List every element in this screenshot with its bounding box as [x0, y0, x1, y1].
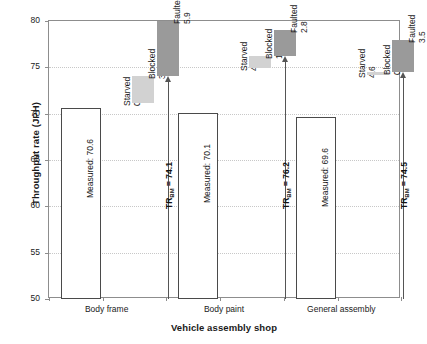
y-tick-label: 65 — [0, 154, 40, 164]
x-tick-mark — [284, 297, 285, 301]
y-tick-label: 70 — [0, 108, 40, 118]
loss-block-faulted[interactable] — [392, 40, 414, 72]
benchmark-arrow-head — [282, 56, 288, 62]
loss-block-value: 5.9 — [183, 0, 193, 24]
x-tick-mark — [338, 297, 339, 301]
benchmark-label: TRBM = 74.1 — [164, 162, 174, 209]
benchmark-subscript: BM — [286, 188, 292, 197]
loss-block-value: 3.5 — [417, 14, 427, 42]
x-tick-mark — [103, 297, 104, 301]
measured-bar-label: Measured: 70.1 — [202, 144, 212, 203]
measured-bar[interactable] — [178, 113, 218, 299]
y-tick-mark — [45, 21, 49, 22]
x-axis-title: Vehicle assembly shop — [48, 322, 400, 333]
gridline — [49, 160, 399, 161]
x-tick-mark — [166, 297, 167, 301]
benchmark-symbol: TR — [164, 198, 174, 209]
y-tick-mark — [45, 160, 49, 161]
y-tick-mark — [45, 67, 49, 68]
measured-bar[interactable] — [296, 117, 336, 299]
x-tick-mark — [401, 297, 402, 301]
x-tick-mark — [49, 297, 50, 301]
benchmark-symbol: TR — [281, 198, 291, 209]
benchmark-arrow-head — [165, 76, 171, 82]
loss-block-label: Faulted2.8 — [290, 5, 309, 33]
y-tick-mark — [45, 114, 49, 115]
gridline — [49, 206, 399, 207]
loss-block-value: 2.8 — [300, 5, 310, 33]
x-category-label: General assembly — [283, 304, 400, 314]
measured-bar-label: Measured: 70.6 — [85, 139, 95, 198]
measured-bar-label: Measured: 69.6 — [320, 148, 330, 207]
y-tick-label: 75 — [0, 61, 40, 71]
loss-block-name: Faulted — [408, 14, 418, 42]
y-tick-mark — [45, 206, 49, 207]
measured-bar[interactable] — [61, 108, 101, 299]
loss-block-faulted[interactable] — [157, 21, 179, 76]
y-tick-label: 80 — [0, 15, 40, 25]
y-tick-label: 60 — [0, 200, 40, 210]
loss-block-starved[interactable] — [342, 75, 364, 118]
benchmark-symbol: TR — [399, 198, 409, 209]
loss-block-faulted[interactable] — [274, 30, 296, 56]
benchmark-value: = 74.1 — [164, 162, 174, 188]
y-tick-mark — [45, 253, 49, 254]
loss-block-label: Faulted5.9 — [173, 0, 192, 24]
benchmark-value: = 76.2 — [281, 162, 291, 188]
x-tick-mark — [220, 297, 221, 301]
x-category-label: Body frame — [48, 304, 165, 314]
y-tick-label: 55 — [0, 247, 40, 257]
plot-area: Measured: 70.6Starved0.5Blocked3.0Faulte… — [48, 20, 400, 298]
benchmark-label: TRBM = 74.5 — [399, 162, 409, 209]
loss-block-starved[interactable] — [224, 68, 246, 112]
benchmark-subscript: BM — [404, 188, 410, 197]
gridline — [49, 253, 399, 254]
benchmark-subscript: BM — [169, 188, 175, 197]
loss-block-blocked[interactable] — [132, 76, 154, 104]
x-category-label: Body paint — [165, 304, 282, 314]
benchmark-label: TRBM = 76.2 — [281, 162, 291, 209]
benchmark-arrow-head — [400, 72, 406, 78]
loss-block-label: Faulted3.5 — [408, 14, 427, 42]
y-tick-label: 50 — [0, 293, 40, 303]
benchmark-value: = 74.5 — [399, 162, 409, 188]
